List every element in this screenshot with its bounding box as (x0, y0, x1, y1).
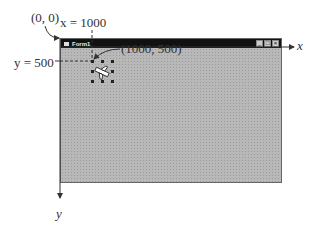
point-pointer (94, 49, 120, 59)
diagram-overlay (0, 0, 313, 228)
origin-pointer (45, 26, 59, 38)
airplane-icon (93, 63, 112, 82)
